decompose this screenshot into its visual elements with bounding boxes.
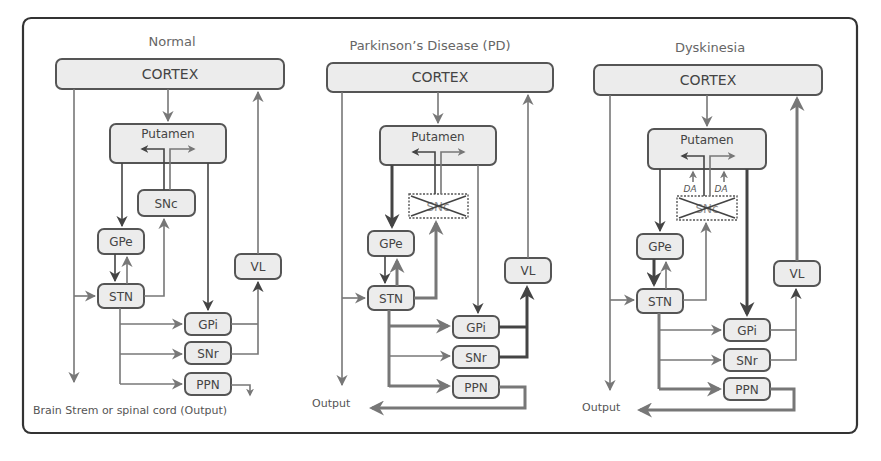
output-label: Brain Strem or spinal cord (Output) [33,404,227,417]
panel-title: Parkinson’s Disease (PD) [349,38,510,53]
svg-text:GPe: GPe [109,235,133,249]
svg-text:Putamen: Putamen [411,130,464,144]
svg-text:GPi: GPi [737,324,757,338]
da-label: DA [683,184,696,194]
svg-text:STN: STN [648,295,672,309]
cortex-node: CORTEX [327,63,553,92]
svg-text:GPi: GPi [198,318,218,332]
snr-node: SNr [185,342,231,364]
svg-text:GPi: GPi [466,321,486,335]
svg-text:SNc: SNc [154,197,177,211]
ppn-node: PPN [453,376,499,398]
putamen-node: Putamen [380,126,496,165]
svg-text:SNr: SNr [736,354,758,368]
gpi-node: GPi [724,319,770,341]
panel-title: Dyskinesia [675,40,745,55]
ppn-node: PPN [185,373,231,395]
cortex-node: CORTEX [594,65,822,95]
gpi-node: GPi [453,316,499,338]
snc-node-degenerated: SNc [409,194,468,218]
gpe-node: GPe [98,229,144,254]
snc-node-degenerated: SNc [677,196,737,220]
svg-text:VL: VL [251,260,266,274]
stn-node: STN [368,286,414,310]
snr-node: SNr [724,349,770,371]
snr-node: SNr [453,346,499,368]
panel-title: Normal [148,34,195,49]
svg-text:PPN: PPN [464,381,487,395]
gpe-node: GPe [368,231,414,256]
ppn-node: PPN [724,378,770,400]
stn-node: STN [637,289,683,313]
putamen-node: Putamen [648,129,766,169]
svg-text:PPN: PPN [735,383,758,397]
stn-node: STN [98,284,144,308]
svg-text:GPe: GPe [648,240,672,254]
svg-text:SNr: SNr [197,347,219,361]
putamen-node: Putamen [110,124,226,163]
svg-text:STN: STN [379,292,403,306]
vl-node: VL [505,258,551,283]
svg-text:CORTEX: CORTEX [142,66,199,82]
panel-parkinsons: Parkinson’s Disease (PD) CORTEX Putamen … [312,38,553,410]
da-label: DA [714,184,727,194]
gpe-node: GPe [637,234,683,259]
svg-text:Putamen: Putamen [141,127,194,141]
svg-text:VL: VL [521,264,536,278]
basal-ganglia-diagram: Normal CORTEX Putamen SNc GPe STN VL [0,0,881,461]
vl-node: VL [774,261,820,286]
svg-text:STN: STN [109,290,133,304]
panel-dyskinesia: Dyskinesia CORTEX Putamen DA DA SNc GPe [582,40,822,414]
da-labels: DA DA [683,172,727,194]
svg-text:CORTEX: CORTEX [412,69,469,85]
svg-text:CORTEX: CORTEX [680,72,737,88]
output-label: Output [582,401,621,414]
svg-text:VL: VL [790,267,805,281]
svg-text:GPe: GPe [379,237,403,251]
svg-text:SNr: SNr [465,351,487,365]
vl-node: VL [235,254,281,279]
panel-normal: Normal CORTEX Putamen SNc GPe STN VL [33,34,284,417]
svg-text:PPN: PPN [196,378,219,392]
snc-node: SNc [138,190,195,216]
svg-text:Putamen: Putamen [680,133,733,147]
cortex-node: CORTEX [56,59,284,89]
output-label: Output [312,397,351,410]
gpi-node: GPi [185,313,231,335]
